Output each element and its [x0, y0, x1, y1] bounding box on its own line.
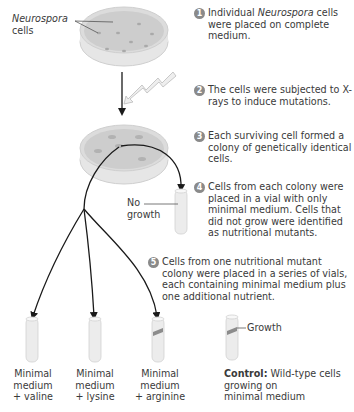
caption-line: Minimal	[14, 368, 52, 379]
step-3-text: Each surviving cell formed a colony of g…	[194, 130, 352, 165]
caption-line: + lysine	[75, 391, 114, 402]
step-5-number-icon: 5	[148, 257, 159, 268]
step-2: 2 The cells were subjected to X-rays to …	[194, 84, 352, 107]
step-1-text: Individual Neurospora cells were placed …	[194, 7, 352, 42]
caption-line: Minimal	[141, 368, 179, 379]
neurospora-label: Neurospora cells	[12, 13, 68, 36]
control-line2: growing on	[224, 380, 277, 391]
control-text: Wild-type cells	[268, 368, 341, 379]
step-1: 1 Individual Neurospora cells were place…	[194, 7, 352, 42]
caption-line: medium	[75, 380, 114, 391]
caption-line: + valine	[13, 391, 53, 402]
no-growth-line2: growth	[127, 209, 160, 220]
control-line3: minimal medium	[224, 391, 305, 402]
vial-arginine-caption: Minimal medium + arginine	[128, 368, 192, 403]
xray-bolt-icon	[124, 72, 176, 104]
step-2-number-icon: 2	[194, 85, 205, 96]
growth-label: Growth	[247, 322, 282, 334]
vial-lysine-caption: Minimal medium + lysine	[67, 368, 123, 403]
step-4-text: Cells from each colony were placed in a …	[194, 181, 354, 239]
step-5: 5 Cells from one nutritional mutant colo…	[148, 256, 354, 302]
control-caption: Control: Wild-type cells growing on mini…	[224, 368, 354, 403]
step-2-text: The cells were subjected to X-rays to in…	[194, 84, 352, 107]
petri-dish-complete-medium	[80, 7, 168, 66]
vial-control	[226, 315, 238, 360]
vial-valine-caption: Minimal medium + valine	[5, 368, 61, 403]
step-1-pre: Individual	[208, 7, 258, 18]
neurospora-cells: cells	[12, 25, 34, 36]
vial-no-growth	[175, 189, 187, 234]
step-1-italic: Neurospora	[258, 7, 314, 18]
no-growth-line1: No	[127, 197, 140, 208]
step-3: 3 Each surviving cell formed a colony of…	[194, 130, 352, 165]
step-3-number-icon: 3	[194, 131, 205, 142]
step-1-number-icon: 1	[194, 8, 205, 19]
step-4: 4 Cells from each colony were placed in …	[194, 181, 354, 239]
step-5-text: Cells from one nutritional mutant colony…	[148, 256, 354, 302]
caption-line: medium	[140, 380, 179, 391]
vial-lysine	[89, 317, 101, 362]
step-4-number-icon: 4	[194, 182, 205, 193]
vial-valine	[26, 317, 38, 362]
caption-line: + arginine	[135, 391, 185, 402]
caption-line: medium	[13, 380, 52, 391]
vial-arginine	[152, 317, 164, 362]
control-bold: Control:	[224, 368, 268, 379]
caption-line: Minimal	[76, 368, 114, 379]
neurospora-italic: Neurospora	[12, 13, 68, 24]
no-growth-label: No growth	[127, 197, 160, 220]
